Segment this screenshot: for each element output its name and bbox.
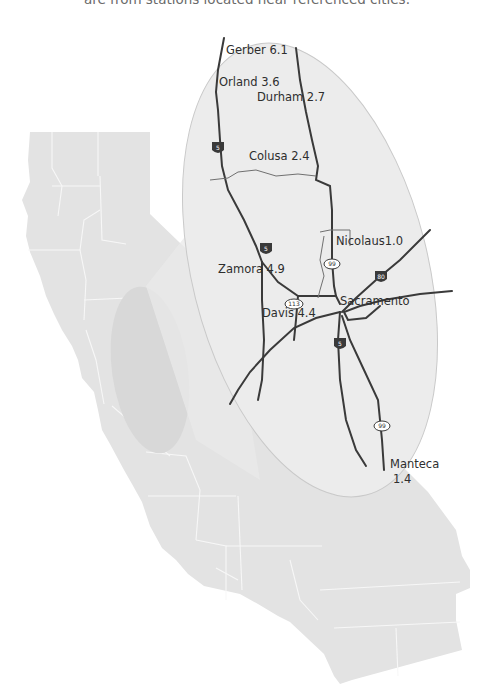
interstate-5-shield-south: 5 xyxy=(334,338,346,349)
station-label-sacramento: Sacramento xyxy=(340,294,410,308)
station-label-zamora: Zamora 4.9 xyxy=(218,262,285,276)
route-99-shield-south: 99 xyxy=(374,421,390,431)
california-map: 5 5 5 80 99 99 113 Gerber 6.1 Orland 3.6… xyxy=(0,0,504,694)
station-label-manteca: Manteca xyxy=(390,457,439,471)
svg-text:99: 99 xyxy=(378,422,386,429)
svg-text:80: 80 xyxy=(377,273,385,280)
interstate-5-shield-middle: 5 xyxy=(260,243,272,254)
station-label-nicolaus: Nicolaus1.0 xyxy=(336,234,403,248)
svg-text:99: 99 xyxy=(328,260,336,267)
station-label-davis: Davis 4.4 xyxy=(262,306,316,320)
svg-text:5: 5 xyxy=(216,144,220,151)
route-99-shield-north: 99 xyxy=(324,259,340,269)
station-value-manteca: 1.4 xyxy=(393,472,411,486)
station-label-colusa: Colusa 2.4 xyxy=(249,149,310,163)
station-label-orland: Orland 3.6 xyxy=(219,75,280,89)
station-label-durham: Durham 2.7 xyxy=(257,90,325,104)
interstate-80-shield: 80 xyxy=(375,271,387,282)
svg-text:5: 5 xyxy=(338,340,342,347)
interstate-5-shield-north: 5 xyxy=(212,142,224,153)
station-label-gerber: Gerber 6.1 xyxy=(226,43,288,57)
svg-text:5: 5 xyxy=(264,245,268,252)
